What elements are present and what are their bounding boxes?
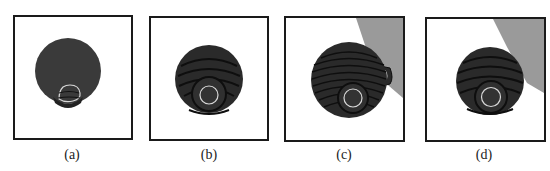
panel-a-image [15, 17, 131, 138]
caption-a: (a) [52, 147, 92, 163]
panel-d [425, 17, 546, 142]
panel-b [149, 16, 269, 141]
inner-contour [482, 88, 501, 107]
panel-c-image [286, 18, 403, 140]
panel-a [13, 15, 133, 140]
inner-contour [344, 89, 362, 107]
inner-contour [200, 86, 218, 104]
caption-b: (b) [189, 147, 229, 163]
panel-b-image [151, 18, 267, 139]
panel-c [284, 16, 405, 142]
caption-d: (d) [464, 147, 504, 163]
caption-c: (c) [324, 147, 364, 163]
panel-d-image [427, 19, 544, 140]
disk [35, 38, 101, 104]
